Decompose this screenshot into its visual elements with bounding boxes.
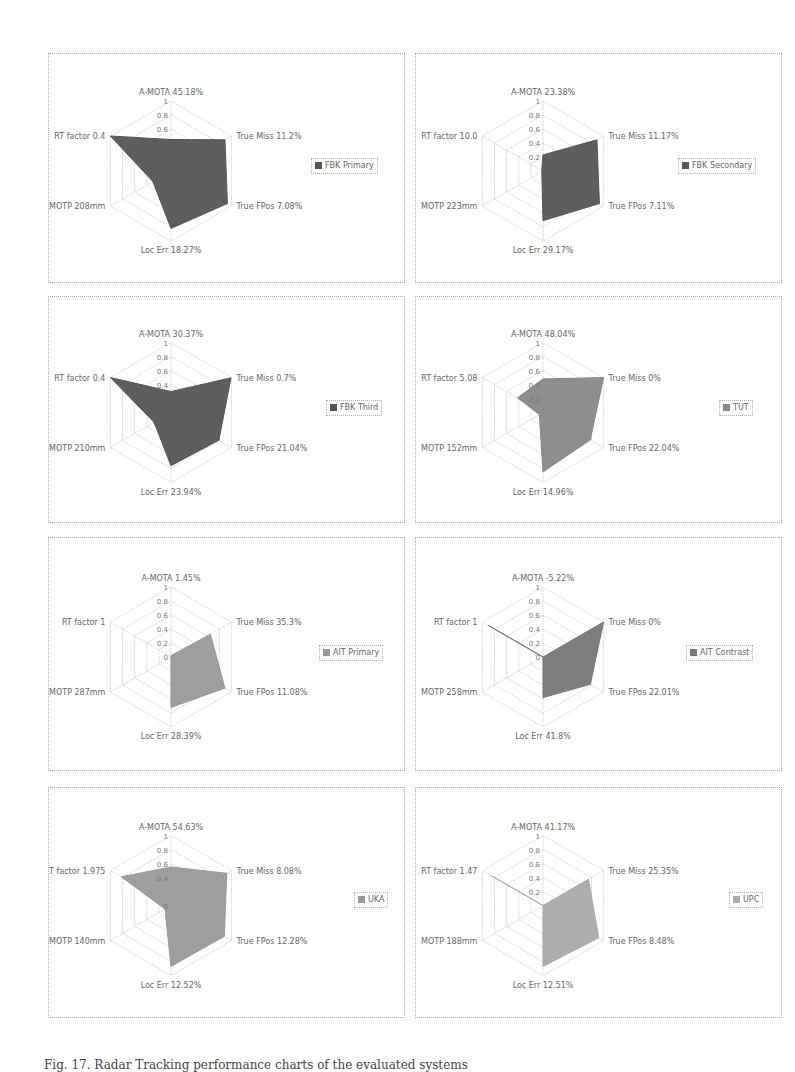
axis-label: Loc Err 29.17% [513,246,574,255]
legend-label: AIT Contrast [700,648,749,657]
axis-label: True Miss 11.17% [608,132,679,141]
axis-label: Loc Err 28.39% [141,732,202,741]
axis-label: RT factor 1 [434,618,477,627]
figure-caption: Fig. 17. Radar Tracking performance char… [44,1058,468,1072]
legend-swatch-icon [733,896,740,903]
axis-label: True Miss 35.3% [236,618,302,627]
axis-label: A-MOTA 48.04% [511,330,576,339]
tick-label: 0.6 [157,861,169,869]
legend-swatch-icon [682,162,689,169]
tick-label: 0.2 [529,396,540,404]
axis-label: MOTP 188mm [421,937,478,946]
tick-label: 0.6 [529,126,541,134]
axis-label: Loc Err 18.27% [141,246,202,255]
tick-label: 1 [164,833,168,841]
legend-label: UKA [368,895,384,904]
chart-panel-fbk-primary: 10.80.6A-MOTA 45.18%True Miss 11.2%True … [48,53,405,283]
axis-spoke [482,171,543,206]
axis-label: True Miss 11.2% [236,132,302,141]
legend-swatch-icon [330,404,337,411]
axis-label: True FPos 21.04% [236,444,308,453]
chart-panel-uka: 10.80.60.40A-MOTA 54.63%True Miss 8.08%T… [48,787,405,1018]
legend-label: TUT [733,403,749,412]
axis-label: True Miss 0% [608,374,662,383]
axis-label: RT factor 0.4 [54,132,105,141]
chart-panel-tut: 10.80.60.40.2A-MOTA 48.04%True Miss 0%Tr… [415,296,782,523]
tick-label: 0.6 [529,612,541,620]
tick-label: 0.8 [529,354,540,362]
data-series-polygon [110,136,227,228]
axis-label: True FPos 12.28% [236,937,308,946]
chart-panel-fbk-third: 10.80.60.4A-MOTA 30.37%True Miss 0.7%Tru… [48,296,405,523]
chart-panel-upc: 10.80.60.40.2A-MOTA 41.17%True Miss 25.3… [415,787,782,1018]
tick-label: 0.8 [157,112,168,120]
tick-label: 0 [164,903,168,911]
tick-label: 0.2 [157,640,168,648]
legend-label: FBK Primary [325,161,374,170]
tick-label: 0.4 [529,382,541,390]
axis-label: True Miss 8.08% [236,867,302,876]
legend: AIT Contrast [686,645,753,661]
axis-label: MOTP 223mm [421,202,478,211]
axis-label: MOTP 140mm [49,937,106,946]
axis-spoke [482,906,543,941]
legend-label: FBK Secondary [692,161,752,170]
legend: UKA [354,892,388,908]
tick-label: 0.8 [157,598,168,606]
axis-label: RT factor 1 [62,618,105,627]
axis-spoke [482,413,543,448]
axis-label: A-MOTA 41.17% [511,823,576,832]
data-series-polygon [488,622,603,698]
data-series-polygon [121,867,226,966]
tick-label: 0.6 [157,368,169,376]
axis-label: Loc Err 14.96% [513,488,574,497]
tick-label: 0.2 [529,154,540,162]
axis-label: Loc Err 41.8% [515,732,571,741]
tick-label: 0 [164,654,168,662]
legend-label: AIT Primary [333,648,379,657]
tick-label: 1 [164,340,168,348]
chart-panel-ait-contrast: 10.80.60.40.20A-MOTA -5.22%True Miss 0%T… [415,537,782,771]
axis-label: True FPos 7.08% [236,202,303,211]
axis-label: A-MOTA 30.37% [139,330,204,339]
axis-label: MOTP 152mm [421,444,478,453]
axis-label: Loc Err 12.52% [141,981,202,990]
axis-label: RT factor 0.4 [54,374,105,383]
tick-label: 0.8 [157,354,168,362]
tick-label: 0.8 [529,112,540,120]
axis-label: True Miss 0.7% [236,374,297,383]
axis-label: A-MOTA 45.18% [139,88,204,97]
data-series-polygon [542,140,600,221]
tick-label: 1 [536,98,540,106]
axis-label: True FPos 11.08% [236,688,308,697]
axis-spoke [110,906,171,941]
legend: FBK Secondary [678,158,756,174]
axis-label: True FPos 7.11% [608,202,675,211]
tick-label: 1 [536,340,540,348]
axis-label: A-MOTA 1.45% [141,574,200,583]
axis-label: MOTP 258mm [421,688,478,697]
legend-swatch-icon [690,649,697,656]
tick-label: 0.8 [529,598,540,606]
legend: FBK Third [326,400,382,416]
axis-label: True Miss 25.35% [608,867,679,876]
axis-label: True FPos 22.01% [608,688,680,697]
axis-label: RT factor 1.975 [49,867,105,876]
axis-label: A-MOTA -5.22% [512,574,574,583]
legend: AIT Primary [319,645,383,661]
axis-label: MOTP 208mm [49,202,106,211]
axis-label: MOTP 287mm [49,688,106,697]
axis-label: A-MOTA 23.38% [511,88,576,97]
tick-label: 0.6 [529,368,541,376]
tick-label: 0.4 [529,626,541,634]
legend-swatch-icon [323,649,330,656]
tick-label: 0.6 [157,126,169,134]
radar-chart: 10.80.60.40.2A-MOTA 41.17%True Miss 25.3… [416,788,783,1019]
axis-label: RT factor 1.47 [421,867,477,876]
axis-label: RT factor 10.0 [421,132,477,141]
tick-label: 1 [536,833,540,841]
legend-label: FBK Third [340,403,378,412]
axis-label: True FPos 8.48% [608,937,675,946]
axis-label: A-MOTA 54.63% [139,823,204,832]
axis-spoke [482,657,543,692]
